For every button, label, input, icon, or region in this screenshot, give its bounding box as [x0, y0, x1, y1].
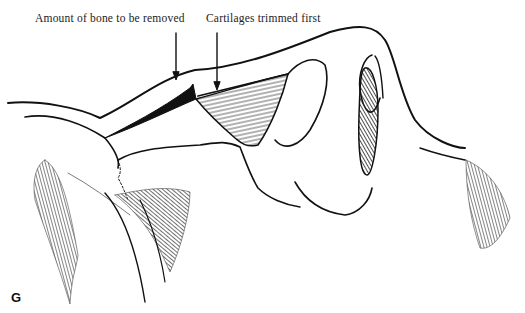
annotation-bone-removal: Amount of bone to be removed	[35, 12, 185, 24]
left-muscle-hatching	[34, 160, 78, 304]
bone-to-remove	[105, 84, 196, 138]
annotation-cartilage-trim: Cartilages trimmed first	[206, 12, 321, 24]
right-ala-hatching	[466, 160, 510, 248]
anatomical-drawing	[0, 0, 525, 313]
illustration-canvas: Amount of bone to be removed Cartilages …	[0, 0, 525, 313]
arrow-bone	[173, 33, 179, 80]
panel-letter: G	[11, 290, 21, 305]
alar-cartilage	[359, 68, 378, 175]
arrow-cartilage	[214, 33, 220, 90]
